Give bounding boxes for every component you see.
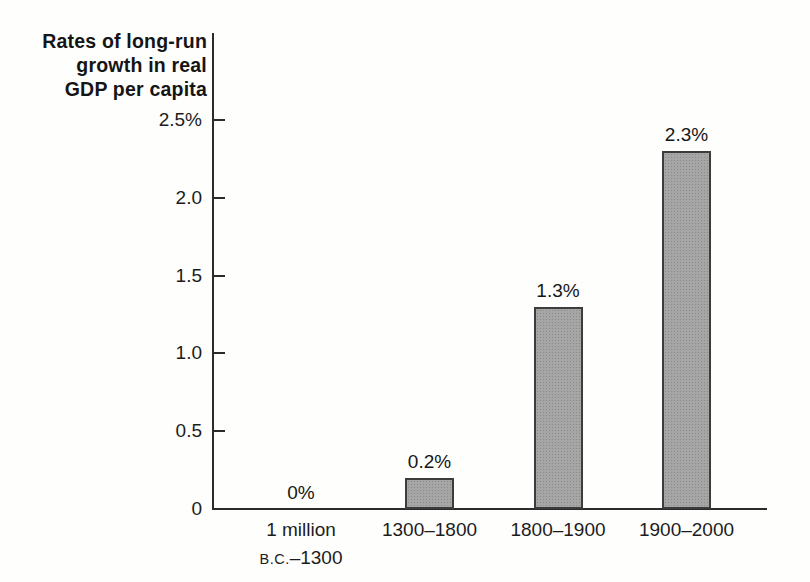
x-category-label: 1300–1800 xyxy=(355,516,505,544)
bar-value-label: 2.3% xyxy=(627,124,747,146)
y-tick-label: 1.0 xyxy=(82,341,202,365)
bar-chart-figure: Rates of long-run growth in real GDP per… xyxy=(0,0,810,582)
y-axis-title-line-2: growth in real xyxy=(0,53,207,77)
y-axis-line xyxy=(212,33,214,510)
y-tick-label: 0.5 xyxy=(82,419,202,443)
bar xyxy=(405,478,454,509)
y-tick-label: 1.5 xyxy=(82,264,202,288)
y-tick-label: 0 xyxy=(82,497,202,521)
x-category-label: 1 millionB.C.–1300 xyxy=(226,516,376,573)
x-category-label: 1800–1900 xyxy=(483,516,633,544)
y-axis-title: Rates of long-run growth in real GDP per… xyxy=(0,29,207,101)
y-tick-label: 2.0 xyxy=(82,186,202,210)
bar-value-label: 1.3% xyxy=(498,280,618,302)
y-axis-title-line-1: Rates of long-run xyxy=(0,29,207,53)
bar xyxy=(662,151,711,509)
bar-value-label: 0% xyxy=(241,482,361,504)
x-category-label: 1900–2000 xyxy=(612,516,762,544)
y-axis-title-line-3: GDP per capita xyxy=(0,77,207,101)
y-tick-mark xyxy=(214,352,225,354)
y-tick-label: 2.5% xyxy=(82,108,202,132)
y-tick-mark xyxy=(214,119,225,121)
y-tick-mark xyxy=(214,430,225,432)
y-tick-mark xyxy=(214,275,225,277)
bar xyxy=(534,307,583,509)
y-tick-mark xyxy=(214,197,225,199)
bar-value-label: 0.2% xyxy=(370,451,490,473)
